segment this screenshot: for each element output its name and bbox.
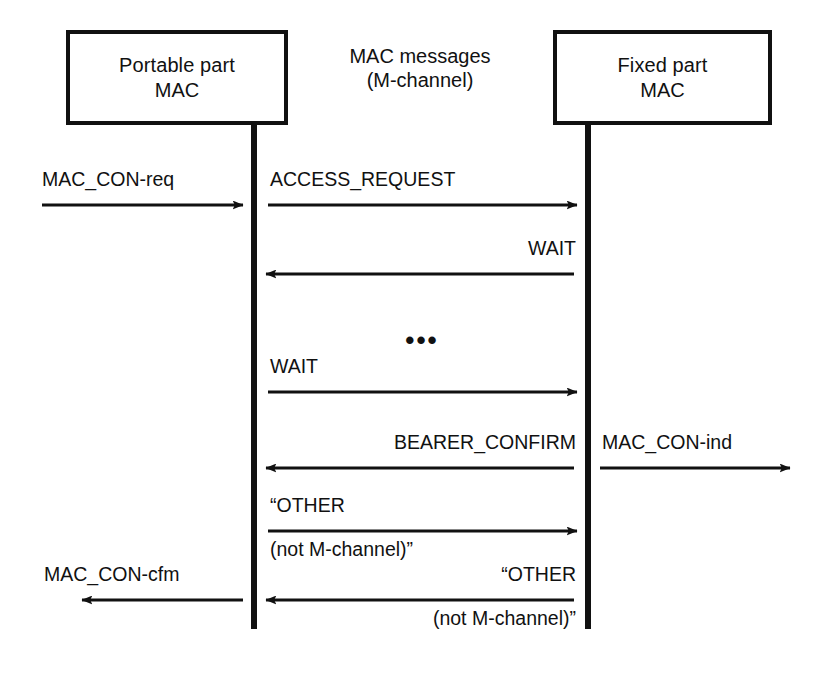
- label-other-forward-above: “OTHER: [270, 494, 580, 517]
- channel-header-line2: (M-channel): [300, 68, 540, 92]
- channel-header: MAC messages (M-channel): [300, 44, 540, 93]
- label-wait-up: WAIT: [270, 355, 578, 378]
- label-bearer-confirm: BEARER_CONFIRM: [268, 431, 576, 454]
- entity-portable-line2: MAC: [155, 78, 200, 102]
- entity-box-portable-part: Portable part MAC: [66, 30, 288, 125]
- label-other-forward-below: (not M-channel)”: [270, 538, 580, 561]
- label-ellipsis: •••: [398, 327, 446, 353]
- entity-portable-line1: Portable part: [119, 53, 235, 77]
- entity-fixed-line2: MAC: [640, 78, 685, 102]
- label-mac-con-ind: MAC_CON-ind: [602, 431, 802, 454]
- entity-fixed-line1: Fixed part: [618, 53, 708, 77]
- label-access-request: ACCESS_REQUEST: [270, 168, 590, 191]
- entity-box-fixed-part: Fixed part MAC: [553, 30, 772, 125]
- label-mac-con-cfm: MAC_CON-cfm: [44, 563, 264, 586]
- label-other-backward-below: (not M-channel)”: [268, 607, 576, 630]
- label-other-backward-above: “OTHER: [268, 563, 576, 586]
- channel-header-line1: MAC messages: [300, 44, 540, 68]
- sequence-diagram: Portable part MAC Fixed part MAC MAC mes…: [0, 0, 818, 673]
- label-wait-down: WAIT: [268, 237, 576, 260]
- label-mac-con-req: MAC_CON-req: [42, 168, 252, 191]
